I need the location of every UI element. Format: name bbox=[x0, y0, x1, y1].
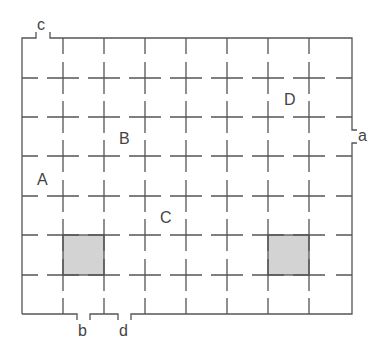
shaded-cell bbox=[268, 235, 309, 275]
wall-top-right bbox=[50, 32, 357, 130]
wall-bottom-left bbox=[22, 314, 77, 320]
room-walls bbox=[22, 32, 357, 320]
wall-bottom-mid bbox=[90, 314, 118, 320]
shaded-cell bbox=[63, 235, 104, 275]
door-label-b: b bbox=[78, 323, 87, 339]
room-label-A: A bbox=[37, 172, 48, 188]
wall-right-bottom bbox=[131, 143, 357, 320]
door-label-d: d bbox=[119, 323, 128, 339]
room-label-C: C bbox=[160, 210, 172, 226]
door-label-c: c bbox=[37, 17, 45, 33]
wall-left-top bbox=[22, 32, 36, 314]
floor-grid-diagram bbox=[0, 0, 389, 360]
room-label-B: B bbox=[119, 131, 130, 147]
door-label-a: a bbox=[358, 128, 367, 144]
room-label-D: D bbox=[284, 92, 296, 108]
